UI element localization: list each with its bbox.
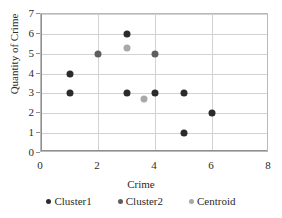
x-tick-label: 6 — [208, 160, 214, 171]
chart-legend: Cluster1Cluster2Centroid — [0, 196, 282, 207]
legend-marker-icon — [118, 199, 123, 204]
y-tick-mark — [36, 73, 40, 74]
gridline-vertical — [212, 14, 213, 151]
gridline-vertical — [155, 14, 156, 151]
y-tick-label: 0 — [16, 147, 34, 158]
plot-area — [40, 13, 268, 152]
data-point — [180, 130, 187, 137]
data-point — [95, 50, 102, 57]
y-tick-label: 1 — [16, 127, 34, 138]
legend-item[interactable]: Centroid — [189, 196, 236, 207]
legend-marker-icon — [189, 199, 194, 204]
x-tick-label: 8 — [265, 160, 271, 171]
y-tick-mark — [36, 33, 40, 34]
data-point — [152, 50, 159, 57]
gridline-horizontal — [41, 14, 267, 15]
data-point — [66, 70, 73, 77]
data-point — [66, 90, 73, 97]
data-point — [140, 96, 147, 103]
gridline-horizontal — [41, 133, 267, 134]
data-point — [209, 110, 216, 117]
x-axis-line — [41, 150, 267, 151]
y-axis-line — [41, 14, 42, 151]
y-axis-title: Quantity of Crime — [8, 0, 20, 114]
y-tick-mark — [36, 152, 40, 153]
gridline-vertical — [98, 14, 99, 151]
scatter-chart: 01234567 02468 Quantity of Crime Crime C… — [0, 0, 282, 218]
data-point — [123, 44, 130, 51]
data-point — [123, 30, 130, 37]
y-tick-mark — [36, 112, 40, 113]
legend-label: Cluster1 — [54, 196, 91, 207]
legend-item[interactable]: Cluster1 — [46, 196, 91, 207]
legend-marker-icon — [46, 199, 51, 204]
gridline-horizontal — [41, 74, 267, 75]
y-tick-mark — [36, 132, 40, 133]
y-tick-mark — [36, 13, 40, 14]
data-point — [180, 90, 187, 97]
legend-item[interactable]: Cluster2 — [118, 196, 163, 207]
x-tick-label: 4 — [151, 160, 157, 171]
x-tick-label: 2 — [94, 160, 100, 171]
y-tick-mark — [36, 92, 40, 93]
data-point — [152, 90, 159, 97]
y-tick-mark — [36, 53, 40, 54]
data-point — [123, 90, 130, 97]
legend-label: Centroid — [197, 196, 236, 207]
legend-label: Cluster2 — [126, 196, 163, 207]
x-axis-title: Crime — [0, 178, 282, 190]
gridline-horizontal — [41, 34, 267, 35]
gridline-horizontal — [41, 113, 267, 114]
x-tick-label: 0 — [37, 160, 43, 171]
